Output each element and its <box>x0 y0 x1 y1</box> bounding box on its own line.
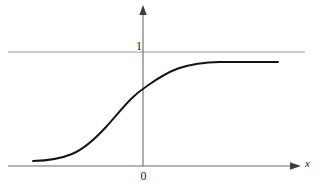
origin-tick-label: 0 <box>138 170 149 182</box>
asymptote-tick-label: 1 <box>131 40 142 52</box>
x-axis-arrowhead-icon <box>290 162 301 170</box>
cdf-curve <box>33 62 278 161</box>
y-axis-arrowhead-icon <box>139 5 146 15</box>
figure-container: 1 0 x <box>0 0 320 188</box>
plot-canvas <box>0 0 320 188</box>
x-axis-label: x <box>305 158 310 169</box>
